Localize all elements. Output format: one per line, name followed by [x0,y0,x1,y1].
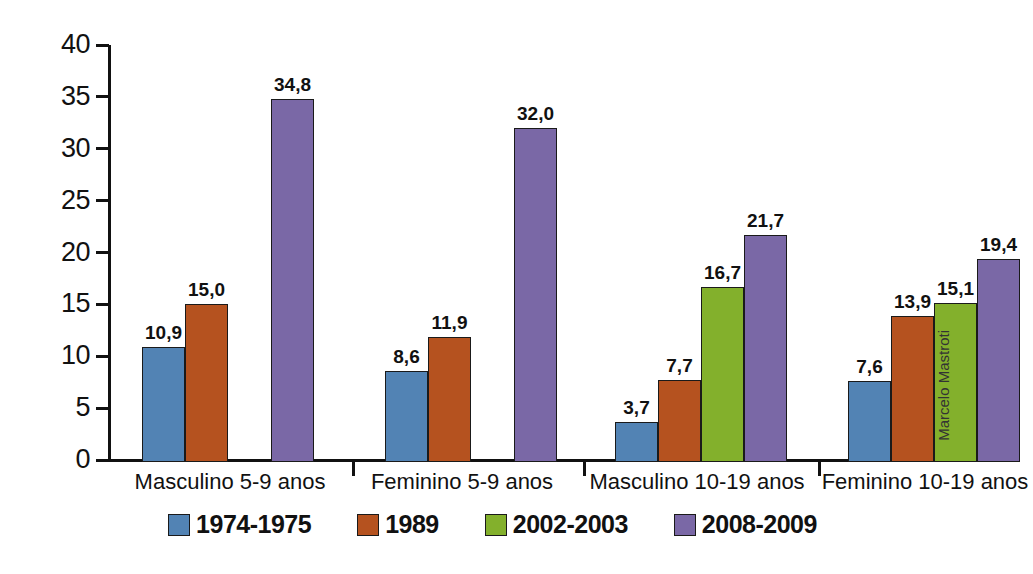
legend-label: 1989 [385,512,439,537]
y-axis-tick [96,199,109,202]
x-axis-category-label: Feminino 5-9 anos [332,470,592,494]
y-axis-tick [96,407,109,410]
y-axis-tick-label: 5 [30,394,90,421]
legend-label: 1974-1975 [196,512,311,537]
bar-value-label: 34,8 [255,75,330,94]
y-axis-tick [96,355,109,358]
chart-legend: 1974-197519892002-20032008-2009 [0,512,985,537]
bar-value-label: 32,0 [498,104,573,123]
bar-value-label: 15,0 [169,280,244,299]
bar-value-label: 19,4 [961,235,1033,254]
bar[interactable] [615,422,658,462]
legend-item[interactable]: 1989 [357,512,439,537]
bar-value-label: 11,9 [412,313,487,332]
legend-swatch-icon [674,514,696,536]
y-axis-tick-label: 15 [30,290,90,317]
bar[interactable] [185,304,228,462]
x-axis-line [108,459,913,462]
bar[interactable] [701,287,744,462]
legend-swatch-icon [357,514,379,536]
bar[interactable] [848,381,891,462]
legend-label: 2008-2009 [702,512,817,537]
legend-label: 2002-2003 [513,512,628,537]
x-axis-category-label: Feminino 10-19 anos [795,470,1033,494]
bar[interactable] [744,235,787,462]
y-axis-tick [96,251,109,254]
y-axis-tick-label: 40 [30,31,90,58]
bar[interactable] [658,380,701,462]
bar[interactable] [271,99,314,462]
y-axis-tick-label: 0 [30,446,90,473]
y-axis-tick [96,147,109,150]
y-axis-tick-label: 30 [30,135,90,162]
bar[interactable] [514,128,557,462]
y-axis-tick [96,44,109,47]
y-axis-tick-label: 25 [30,187,90,214]
y-axis-tick [96,303,109,306]
x-axis-category-label: Masculino 10-19 anos [567,470,827,494]
y-axis-tick-label: 10 [30,342,90,369]
y-axis-tick-label: 35 [30,83,90,110]
legend-item[interactable]: 2002-2003 [485,512,628,537]
y-axis-tick [96,95,109,98]
bar-value-label: 21,7 [728,211,803,230]
bar[interactable] [977,259,1020,462]
plot-area: 4035302520151050 10,915,034,88,611,932,0… [0,0,985,500]
legend-item[interactable]: 2008-2009 [674,512,817,537]
bar[interactable] [142,347,185,462]
bar[interactable] [385,371,428,462]
legend-swatch-icon [485,514,507,536]
y-axis-tick-label: 20 [30,239,90,266]
x-axis-category-label: Masculino 5-9 anos [100,470,360,494]
legend-swatch-icon [168,514,190,536]
bar[interactable] [428,337,471,462]
bar[interactable] [891,316,934,462]
legend-item[interactable]: 1974-1975 [168,512,311,537]
y-axis-tick [96,459,109,462]
credit-text: Marcelo Mastroti [936,330,951,441]
